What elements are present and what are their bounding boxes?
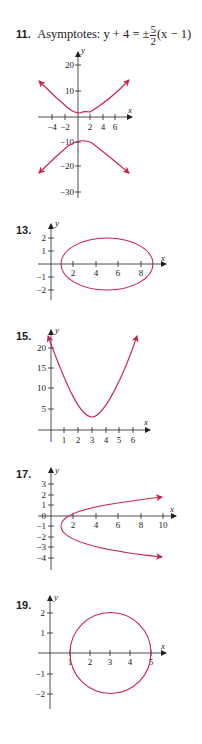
svg-text:6: 6 xyxy=(131,435,136,445)
svg-text:1: 1 xyxy=(62,435,67,445)
parabola-left xyxy=(48,336,92,417)
svg-text:2: 2 xyxy=(41,608,46,618)
svg-text:6: 6 xyxy=(116,520,121,530)
svg-text:10: 10 xyxy=(159,520,169,530)
graphs: y x 20 10 −10 −20 −30 −4 −2 2 4 6 y x 2 … xyxy=(0,0,202,744)
parabola-upper-branch xyxy=(61,497,162,526)
svg-text:5: 5 xyxy=(117,435,122,445)
parabola-lower-branch xyxy=(61,526,162,557)
svg-text:x: x xyxy=(143,417,148,427)
svg-text:4: 4 xyxy=(101,122,106,132)
svg-text:2: 2 xyxy=(42,233,47,243)
svg-text:−2: −2 xyxy=(36,285,46,295)
svg-text:4: 4 xyxy=(94,520,99,530)
svg-text:x: x xyxy=(169,504,174,514)
svg-text:4: 4 xyxy=(104,435,109,445)
svg-text:2: 2 xyxy=(71,520,76,530)
svg-text:15: 15 xyxy=(37,363,47,373)
svg-text:1: 1 xyxy=(42,500,47,510)
svg-text:8: 8 xyxy=(139,268,144,278)
svg-text:x: x xyxy=(160,641,165,651)
graph-13 xyxy=(38,224,166,300)
svg-text:x: x xyxy=(160,253,165,263)
svg-text:y: y xyxy=(53,592,58,602)
svg-text:5: 5 xyxy=(42,404,47,414)
svg-text:2: 2 xyxy=(88,657,93,667)
svg-text:−1: −1 xyxy=(36,521,46,531)
svg-text:−2: −2 xyxy=(35,689,45,699)
svg-text:−20: −20 xyxy=(60,161,75,171)
svg-text:−10: −10 xyxy=(60,137,75,147)
svg-text:4: 4 xyxy=(94,268,99,278)
graph-17 xyxy=(38,468,176,570)
svg-text:10: 10 xyxy=(65,86,75,96)
svg-text:2: 2 xyxy=(88,122,93,132)
svg-text:2: 2 xyxy=(76,435,81,445)
svg-text:0: 0 xyxy=(42,511,47,521)
svg-text:−4: −4 xyxy=(47,122,57,132)
svg-text:−2: −2 xyxy=(60,122,70,132)
svg-text:8: 8 xyxy=(139,520,144,530)
svg-text:20: 20 xyxy=(65,60,75,70)
x-axis-label: x xyxy=(127,105,132,115)
svg-text:3: 3 xyxy=(108,657,113,667)
svg-text:10: 10 xyxy=(37,383,47,393)
svg-text:3: 3 xyxy=(90,435,95,445)
svg-text:−4: −4 xyxy=(36,553,46,563)
svg-text:2: 2 xyxy=(42,490,47,500)
svg-text:6: 6 xyxy=(113,122,118,132)
svg-text:6: 6 xyxy=(116,268,121,278)
svg-text:20: 20 xyxy=(37,343,47,353)
svg-text:1: 1 xyxy=(42,246,47,256)
svg-text:−2: −2 xyxy=(36,532,46,542)
svg-text:y: y xyxy=(54,465,59,475)
svg-text:−1: −1 xyxy=(36,272,46,282)
svg-text:−1: −1 xyxy=(35,669,45,679)
svg-text:−3: −3 xyxy=(36,542,46,552)
y-axis-label: y xyxy=(80,45,85,55)
svg-text:2: 2 xyxy=(71,268,76,278)
svg-text:y: y xyxy=(54,218,59,228)
svg-text:1: 1 xyxy=(41,628,46,638)
svg-text:3: 3 xyxy=(42,479,47,489)
svg-text:y: y xyxy=(54,325,59,335)
parabola-right xyxy=(92,336,137,417)
svg-text:−30: −30 xyxy=(60,187,75,197)
svg-text:4: 4 xyxy=(128,657,133,667)
